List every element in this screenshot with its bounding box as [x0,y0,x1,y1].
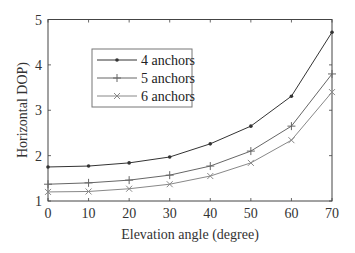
plus-marker [206,162,214,170]
dot-marker [87,164,91,168]
x-tick-label: 50 [244,206,258,221]
dot-marker [290,94,294,98]
x-tick-label: 60 [284,206,298,221]
dot-marker [127,161,131,165]
legend-label: 5 anchors [141,71,195,86]
dot-marker [208,142,212,146]
plus-marker [247,147,255,155]
x-axis-label: Elevation angle (degree) [121,227,259,243]
x-marker [288,137,294,143]
x-tick-label: 70 [325,206,339,221]
y-tick-label: 3 [35,103,42,118]
y-tick-label: 5 [35,13,42,28]
plot-frame [48,20,332,202]
plus-marker [166,171,174,179]
x-tick-label: 0 [45,206,52,221]
plus-marker [44,180,52,188]
dot-marker [249,124,253,128]
x-marker [248,160,254,166]
dot-marker [115,58,119,62]
y-tick-label: 4 [35,58,42,73]
legend-label: 4 anchors [141,53,195,68]
axes: 01020304050607012345 [35,13,339,222]
plus-marker [85,179,93,187]
plus-marker [125,176,133,184]
y-axis-label: Horizontal DOP) [15,62,31,158]
legend: 4 anchors5 anchors6 anchors [92,49,195,107]
x-tick-label: 40 [203,206,217,221]
dot-marker [46,165,50,169]
y-tick-label: 1 [35,194,42,209]
dot-marker [330,30,334,34]
legend-label: 6 anchors [141,89,195,104]
line-chart: 01020304050607012345 4 anchors5 anchors6… [0,0,355,253]
dot-marker [168,155,172,159]
x-tick-label: 20 [122,206,136,221]
y-tick-label: 2 [35,149,42,164]
x-tick-label: 30 [163,206,177,221]
x-tick-label: 10 [82,206,96,221]
